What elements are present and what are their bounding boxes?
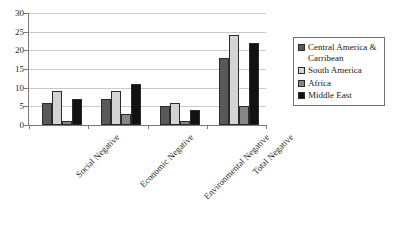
bar <box>180 121 190 125</box>
legend-label: Central America &Carribean <box>308 42 376 63</box>
chart-legend: Central America &CarribeanSouth AmericaA… <box>293 37 385 106</box>
bar <box>229 35 239 125</box>
bar <box>160 106 170 125</box>
legend-item[interactable]: Central America &Carribean <box>298 42 378 63</box>
y-tick-mark <box>24 106 29 107</box>
x-tick-mark <box>207 125 208 129</box>
y-tick-label: 30 <box>15 9 24 18</box>
bar <box>239 106 249 125</box>
bar <box>190 110 200 125</box>
y-tick-label: 15 <box>15 65 24 74</box>
legend-label: Africa <box>308 78 331 89</box>
y-tick-mark <box>24 32 29 33</box>
bar <box>62 121 72 125</box>
bar <box>111 91 121 125</box>
bar <box>72 99 82 125</box>
bar-group <box>219 13 259 125</box>
x-tick-mark <box>29 125 30 129</box>
y-tick-mark <box>24 69 29 70</box>
x-tick-mark <box>266 125 267 129</box>
bar <box>42 103 52 125</box>
bar <box>170 103 180 125</box>
legend-swatch-icon <box>298 80 305 87</box>
bar <box>219 58 229 125</box>
legend-swatch-icon <box>298 92 305 99</box>
legend-swatch-icon <box>298 44 305 51</box>
x-category-label: Economic Negative <box>138 132 195 189</box>
legend-item[interactable]: Middle East <box>298 90 378 101</box>
plot-area: 302520151050 Social NegativeEconomic Neg… <box>0 0 270 150</box>
bar-group <box>160 13 200 125</box>
y-tick-mark <box>24 50 29 51</box>
legend-label: South America <box>308 65 362 76</box>
y-tick-label: 25 <box>15 27 24 36</box>
legend-swatch-icon <box>298 67 305 74</box>
bar <box>52 91 62 125</box>
x-tick-mark <box>148 125 149 129</box>
legend-label: Middle East <box>308 90 352 101</box>
x-category-label: Social Negative <box>74 132 122 180</box>
x-axis-category-labels: Social NegativeEconomic NegativeEnvironm… <box>0 128 270 218</box>
bar-group <box>101 13 141 125</box>
bar-group <box>42 13 82 125</box>
y-tick-label: 10 <box>15 83 24 92</box>
legend-item[interactable]: Africa <box>298 78 378 89</box>
bar-chart: 302520151050 Social NegativeEconomic Neg… <box>0 0 396 240</box>
y-tick-label: 20 <box>15 46 24 55</box>
bar <box>121 114 131 125</box>
bar <box>101 99 111 125</box>
y-tick-mark <box>24 13 29 14</box>
x-tick-mark <box>88 125 89 129</box>
y-tick-mark <box>24 88 29 89</box>
bars-container <box>29 13 266 125</box>
bar <box>131 84 141 125</box>
legend-item[interactable]: South America <box>298 65 378 76</box>
bar <box>249 43 259 125</box>
